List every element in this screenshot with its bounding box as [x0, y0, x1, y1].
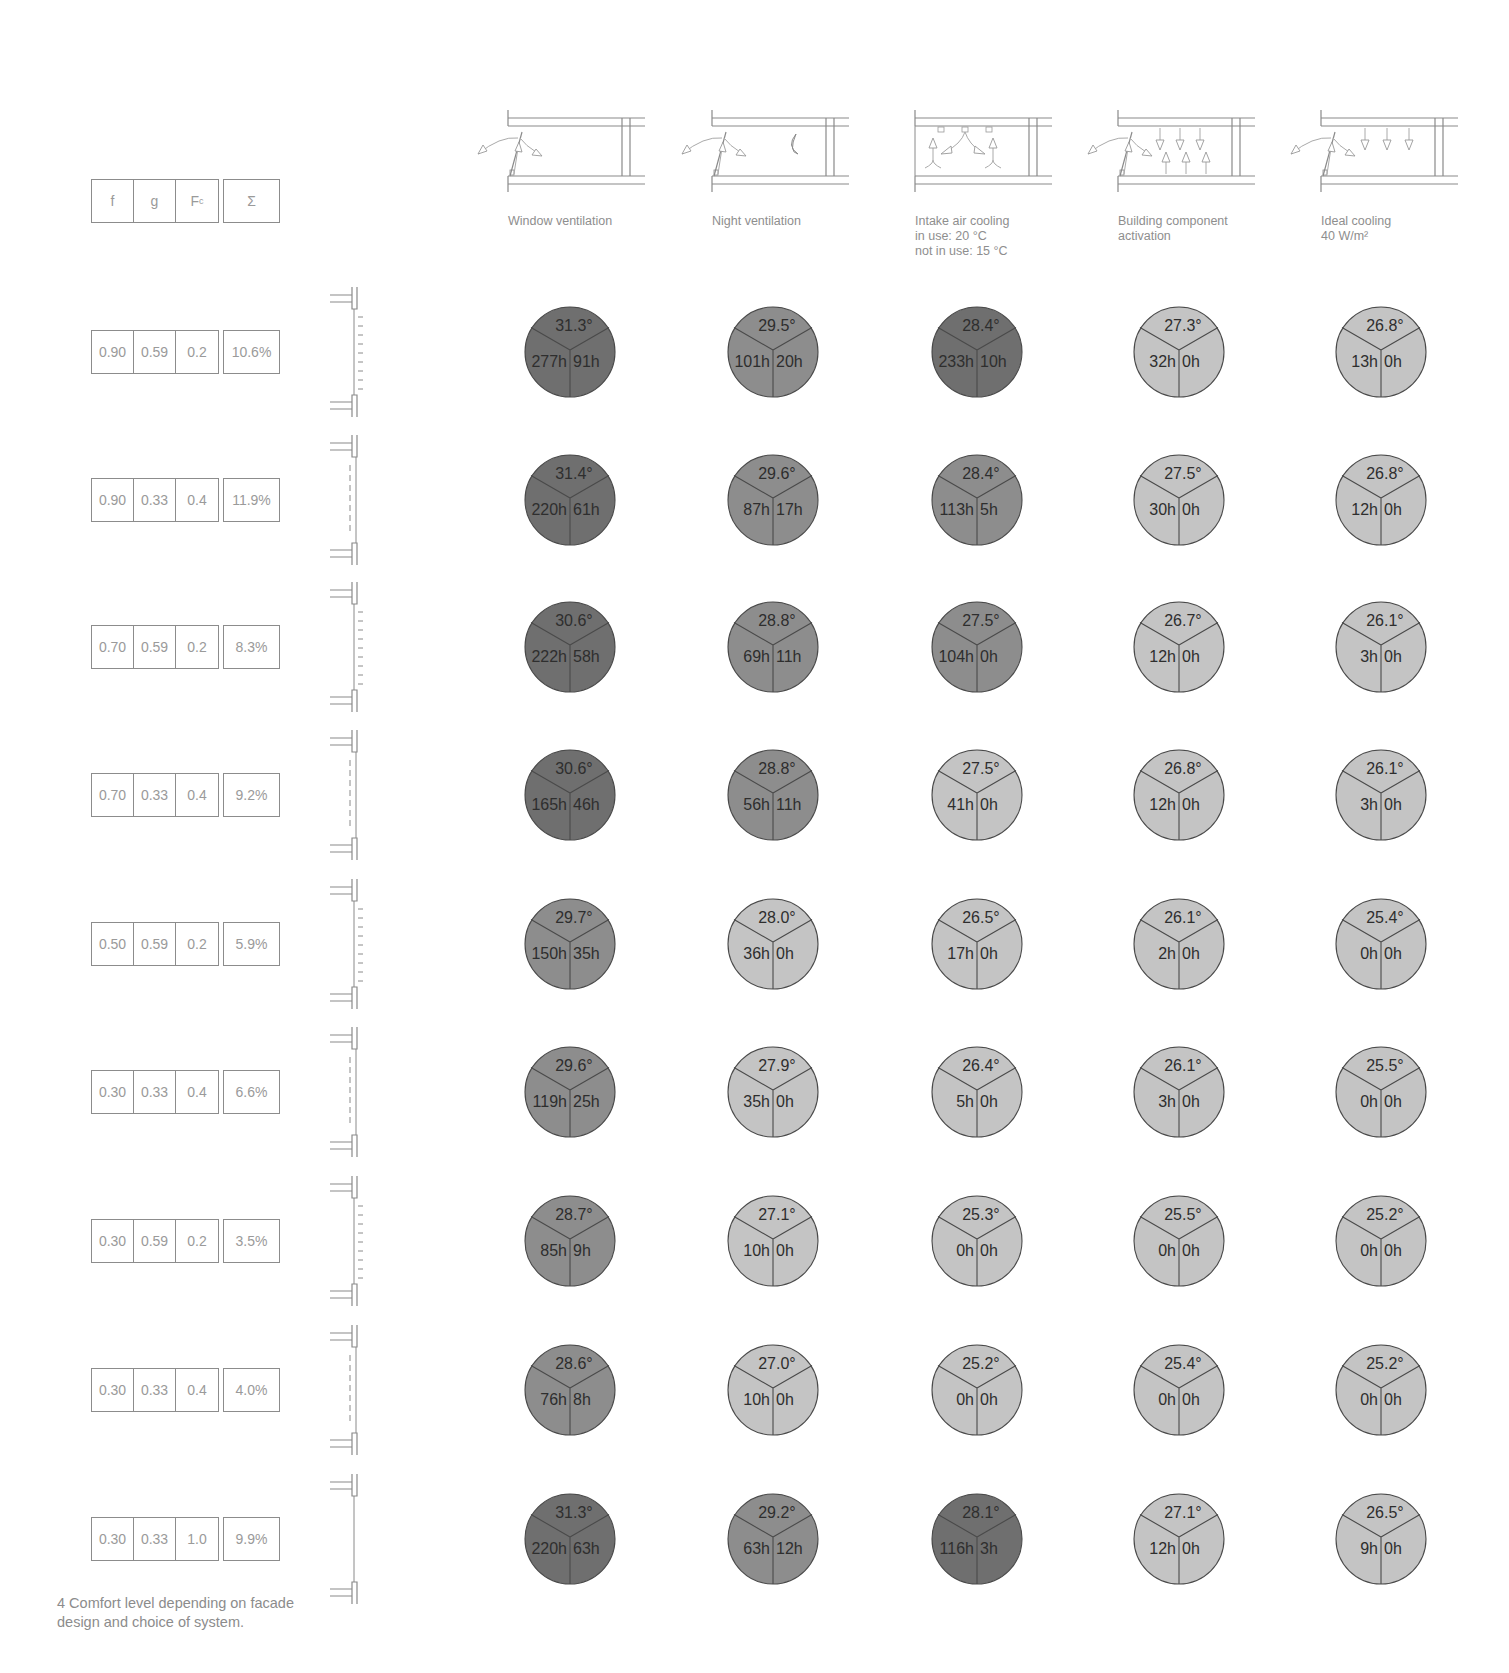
comfort-pie: 28.4° 113h 5h [931, 454, 1023, 546]
max-temperature: 28.4° [931, 465, 1023, 483]
hours-over-28: 0h [776, 1391, 794, 1409]
value-fc-text: 0.4 [187, 492, 206, 508]
value-f-text: 0.30 [99, 1233, 126, 1249]
hours-over-28: 3h [980, 1540, 998, 1558]
hours-over-26: 222h [531, 648, 567, 666]
comfort-pie: 25.2° 0h 0h [1335, 1195, 1427, 1287]
max-temperature: 26.8° [1335, 465, 1427, 483]
comfort-pie: 26.4° 5h 0h [931, 1046, 1023, 1138]
hours-over-26: 69h [743, 648, 770, 666]
comfort-pie: 29.5° 101h 20h [727, 306, 819, 398]
value-f: 0.90 [91, 478, 134, 522]
max-temperature: 29.2° [727, 1504, 819, 1522]
value-fc: 0.4 [176, 773, 219, 817]
comfort-pie: 25.2° 0h 0h [931, 1344, 1023, 1436]
comfort-pie: 30.6° 222h 58h [524, 601, 616, 693]
comfort-pie: 26.5° 17h 0h [931, 898, 1023, 990]
comfort-pie: 26.5° 9h 0h [1335, 1493, 1427, 1585]
hours-over-26: 12h [1149, 796, 1176, 814]
value-g: 0.59 [134, 330, 176, 374]
max-temperature: 31.3° [524, 317, 616, 335]
max-temperature: 27.5° [931, 760, 1023, 778]
hours-over-26: 0h [956, 1391, 974, 1409]
hours-over-26: 9h [1360, 1540, 1378, 1558]
hours-over-26: 87h [743, 501, 770, 519]
hours-over-26: 277h [531, 353, 567, 371]
value-f-text: 0.70 [99, 639, 126, 655]
value-f-text: 0.70 [99, 787, 126, 803]
hours-over-28: 0h [1384, 1093, 1402, 1111]
value-fc-text: 0.2 [187, 936, 206, 952]
facade-section-icon [330, 1474, 390, 1604]
comfort-pie: 25.5° 0h 0h [1335, 1046, 1427, 1138]
header-fc-label: F [190, 193, 199, 209]
hours-over-28: 0h [1182, 1540, 1200, 1558]
max-temperature: 28.8° [727, 760, 819, 778]
hours-over-28: 63h [573, 1540, 600, 1558]
header-sum: Σ [223, 179, 280, 223]
hours-over-26: 12h [1149, 1540, 1176, 1558]
value-sum-text: 4.0% [236, 1382, 268, 1398]
parameter-row: 0.30 0.33 0.4 6.6% [91, 1070, 280, 1114]
comfort-pie: 25.2° 0h 0h [1335, 1344, 1427, 1436]
comfort-pie: 25.4° 0h 0h [1335, 898, 1427, 990]
hours-over-26: 0h [1360, 945, 1378, 963]
hours-over-26: 32h [1149, 353, 1176, 371]
hours-over-26: 0h [1158, 1391, 1176, 1409]
max-temperature: 26.1° [1335, 760, 1427, 778]
value-f: 0.30 [91, 1070, 134, 1114]
hours-over-28: 0h [980, 1242, 998, 1260]
hours-over-26: 85h [540, 1242, 567, 1260]
max-temperature: 25.5° [1335, 1057, 1427, 1075]
value-fc: 0.2 [176, 330, 219, 374]
value-g: 0.59 [134, 625, 176, 669]
hours-over-28: 0h [1384, 648, 1402, 666]
value-g-text: 0.33 [141, 787, 168, 803]
value-g-text: 0.33 [141, 1382, 168, 1398]
hours-over-28: 17h [776, 501, 803, 519]
value-sum: 10.6% [223, 330, 280, 374]
hours-over-28: 0h [1182, 648, 1200, 666]
value-g-text: 0.33 [141, 1084, 168, 1100]
hours-over-26: 220h [531, 1540, 567, 1558]
column-label: Night ventilation [712, 214, 801, 229]
comfort-pie: 26.1° 3h 0h [1335, 601, 1427, 693]
max-temperature: 26.4° [931, 1057, 1023, 1075]
comfort-pie: 30.6° 165h 46h [524, 749, 616, 841]
value-fc-text: 0.4 [187, 1084, 206, 1100]
comfort-pie: 25.4° 0h 0h [1133, 1344, 1225, 1436]
value-sum-text: 8.3% [236, 639, 268, 655]
comfort-pie: 31.4° 220h 61h [524, 454, 616, 546]
value-fc: 0.2 [176, 625, 219, 669]
hours-over-28: 0h [980, 1391, 998, 1409]
value-f: 0.90 [91, 330, 134, 374]
comfort-pie: 27.9° 35h 0h [727, 1046, 819, 1138]
value-fc-text: 0.4 [187, 787, 206, 803]
parameter-row: 0.90 0.59 0.2 10.6% [91, 330, 280, 374]
hours-over-28: 0h [1384, 353, 1402, 371]
hours-over-26: 56h [743, 796, 770, 814]
value-fc-text: 0.2 [187, 639, 206, 655]
hours-over-28: 35h [573, 945, 600, 963]
facade-section-icon [330, 582, 390, 712]
value-g: 0.59 [134, 1219, 176, 1263]
value-sum: 11.9% [223, 478, 280, 522]
hours-over-28: 0h [1182, 945, 1200, 963]
hours-over-28: 25h [573, 1093, 600, 1111]
value-f: 0.30 [91, 1517, 134, 1561]
value-g-text: 0.33 [141, 492, 168, 508]
value-f: 0.30 [91, 1368, 134, 1412]
hours-over-28: 0h [1182, 1242, 1200, 1260]
header-f-label: f [111, 193, 115, 209]
hours-over-28: 0h [980, 648, 998, 666]
value-f-text: 0.50 [99, 936, 126, 952]
max-temperature: 26.7° [1133, 612, 1225, 630]
value-g: 0.33 [134, 1070, 176, 1114]
value-fc: 0.2 [176, 1219, 219, 1263]
hours-over-28: 11h [776, 648, 802, 666]
value-f-text: 0.90 [99, 344, 126, 360]
value-sum: 5.9% [223, 922, 280, 966]
hours-over-28: 0h [1384, 1540, 1402, 1558]
value-f: 0.30 [91, 1219, 134, 1263]
max-temperature: 27.5° [1133, 465, 1225, 483]
